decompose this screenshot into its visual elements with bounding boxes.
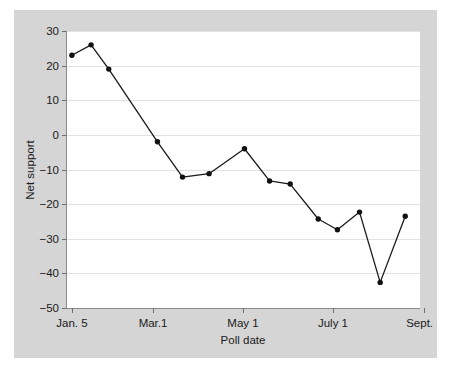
data-point-marker	[242, 146, 247, 151]
data-point-marker	[288, 181, 293, 186]
data-point-marker	[316, 216, 321, 221]
data-point-marker	[377, 280, 382, 285]
data-point-marker	[106, 66, 111, 71]
data-point-marker	[335, 227, 340, 232]
figure-card: 3020100−10−20−30−40−50 Jan. 5Mar.1May 1J…	[14, 10, 437, 358]
y-tick-label: 20	[46, 60, 59, 72]
data-point-marker	[155, 139, 160, 144]
data-point-marker	[357, 209, 362, 214]
data-point-marker	[206, 171, 211, 176]
y-tick-label: 30	[46, 25, 59, 37]
y-tick-label: −20	[39, 198, 59, 210]
data-point-marker	[69, 53, 74, 58]
y-tick-label: 10	[46, 94, 59, 106]
y-tick-label: −40	[39, 267, 59, 279]
y-tick-label: −10	[39, 164, 59, 176]
y-tick-label: −50	[39, 302, 59, 314]
data-point-marker	[180, 174, 185, 179]
x-tick-label: Jan. 5	[56, 317, 87, 329]
x-tick-label: May 1	[227, 317, 258, 329]
net-support-line-chart: 3020100−10−20−30−40−50 Jan. 5Mar.1May 1J…	[14, 10, 437, 358]
x-axis-title: Poll date	[221, 334, 266, 346]
x-tick-label: Sept. 1	[406, 317, 437, 329]
y-tick-label: −30	[39, 233, 59, 245]
data-point-marker	[88, 42, 93, 47]
y-tick-label: 0	[53, 129, 59, 141]
y-axis-title: Net support	[24, 139, 36, 199]
x-tick-label: July 1	[318, 317, 348, 329]
x-tick-label: Mar.1	[139, 317, 168, 329]
data-point-marker	[403, 214, 408, 219]
data-point-marker	[267, 178, 272, 183]
